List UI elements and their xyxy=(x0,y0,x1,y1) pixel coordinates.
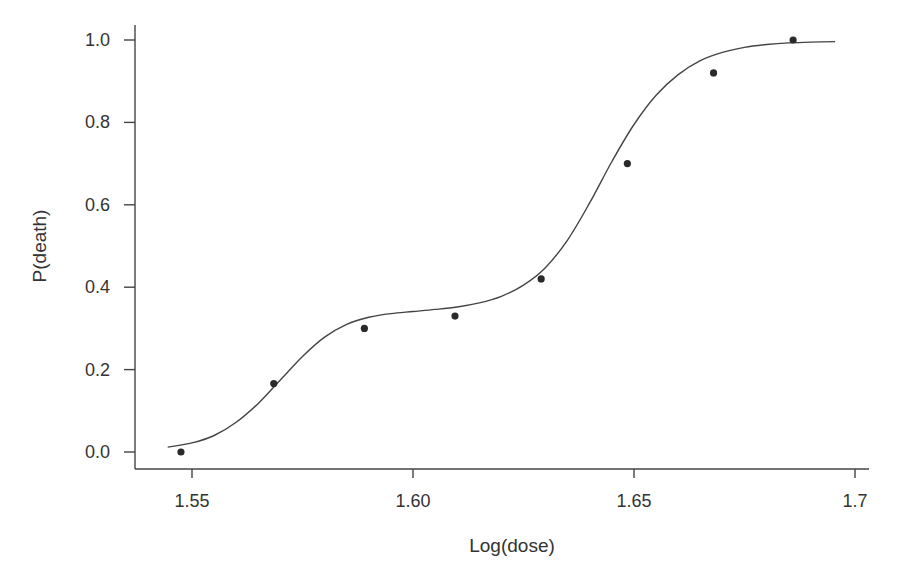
y-axis: 0.00.20.40.60.81.0 P(death) xyxy=(29,25,135,469)
data-point xyxy=(451,312,458,319)
y-axis-title: P(death) xyxy=(29,210,50,283)
x-tick-label: 1.55 xyxy=(174,491,209,511)
x-tick-label: 1.65 xyxy=(616,491,651,511)
data-point xyxy=(177,448,184,455)
y-tick-label: 1.0 xyxy=(85,30,110,50)
data-point xyxy=(710,69,717,76)
plot-area xyxy=(168,36,835,455)
y-tick-label: 0.4 xyxy=(85,277,110,297)
data-point xyxy=(538,275,545,282)
data-point xyxy=(270,380,277,387)
y-axis-ticks: 0.00.20.40.60.81.0 xyxy=(85,30,135,462)
x-axis-title: Log(dose) xyxy=(469,535,555,556)
x-axis-ticks: 1.551.601.651.7 xyxy=(174,469,867,511)
fitted-curve xyxy=(168,42,835,448)
data-point xyxy=(790,36,797,43)
x-tick-label: 1.7 xyxy=(842,491,867,511)
dose-response-chart: 0.00.20.40.60.81.0 P(death) 1.551.601.65… xyxy=(0,0,897,576)
data-point xyxy=(361,325,368,332)
data-point xyxy=(624,160,631,167)
y-tick-label: 0.0 xyxy=(85,442,110,462)
x-tick-label: 1.60 xyxy=(395,491,430,511)
y-tick-label: 0.8 xyxy=(85,112,110,132)
observed-points xyxy=(177,36,796,455)
y-tick-label: 0.6 xyxy=(85,195,110,215)
y-tick-label: 0.2 xyxy=(85,360,110,380)
x-axis: 1.551.601.651.7 Log(dose) xyxy=(135,469,869,556)
